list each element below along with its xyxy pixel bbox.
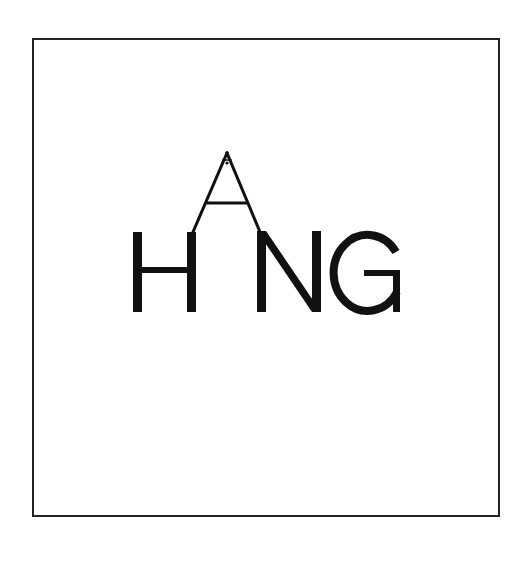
letter-h-right-stem — [187, 232, 196, 312]
letter-h-left-stem — [133, 232, 142, 312]
letter-a-right-leg — [227, 153, 260, 232]
letter-h — [133, 232, 196, 312]
letter-n-left-stem — [257, 231, 266, 312]
letter-h-crossbar — [141, 267, 188, 273]
letter-a-hanger — [193, 153, 260, 232]
letter-g-spur — [393, 270, 400, 312]
letter-g — [334, 235, 400, 312]
hanger-hook-icon — [225, 161, 228, 164]
hang-logo — [0, 0, 529, 561]
letter-n-right-stem — [312, 231, 321, 312]
letter-a-left-leg — [193, 153, 227, 232]
letter-n — [257, 231, 321, 312]
letter-n-diagonal — [257, 231, 321, 312]
